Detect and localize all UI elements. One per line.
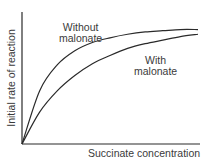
annotation-line-2: malonate <box>59 33 102 44</box>
curve-without-malonate <box>22 29 198 144</box>
annotation-line-2: malonate <box>134 66 177 77</box>
annotation-without-malonate: Without malonate <box>59 22 102 44</box>
x-axis-label: Succinate concentration <box>88 148 200 159</box>
chart-plot <box>0 0 208 164</box>
y-axis-label: Initial rate of reaction <box>5 23 17 133</box>
annotation-with-malonate: With malonate <box>134 55 177 77</box>
curve-with-malonate <box>22 34 198 144</box>
